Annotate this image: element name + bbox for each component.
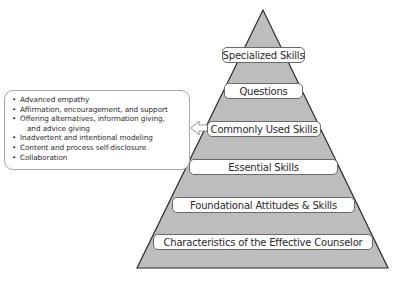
level-foundational-attitudes: Foundational Attitudes & Skills (172, 197, 355, 213)
callout-item: Advanced empathy (12, 95, 183, 105)
level-questions: Questions (224, 83, 303, 99)
level-specialized-skills: Specialized Skills (222, 47, 305, 63)
level-commonly-used-skills: Commonly Used Skills (207, 121, 321, 137)
callout-item: Offering alternatives, information givin… (12, 114, 183, 124)
callout-item-continuation: and advice giving (12, 124, 183, 134)
callout-item: Affirmation, encouragement, and support (12, 105, 183, 115)
callout-box: Advanced empathy Affirmation, encouragem… (4, 90, 190, 170)
callout-item: Collaboration (12, 153, 183, 163)
level-essential-skills: Essential Skills (189, 159, 338, 175)
callout-item: Content and process self-disclosure (12, 143, 183, 153)
callout-item: Inadvertent and intentional modeling (12, 133, 183, 143)
level-characteristics-counselor: Characteristics of the Effective Counsel… (153, 234, 373, 250)
